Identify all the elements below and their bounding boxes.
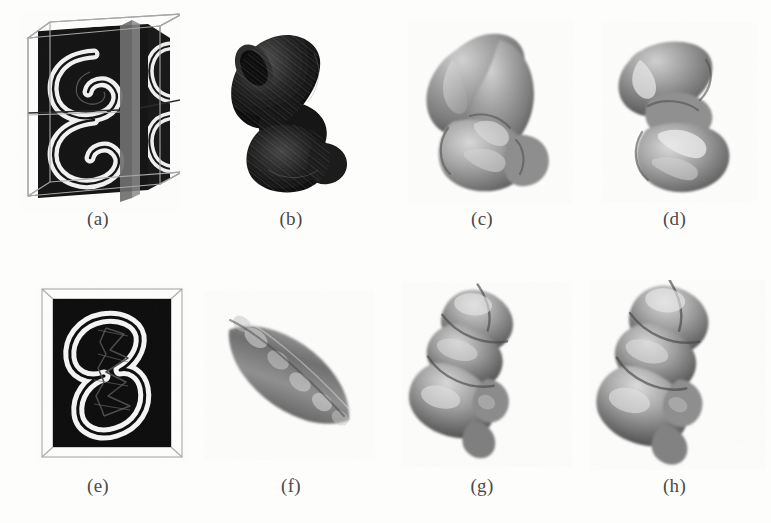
panel-caption-a: (a) (0, 209, 196, 228)
panel-b: (b) (196, 0, 386, 261)
isosurface-h (590, 280, 765, 470)
isosurface-b (210, 20, 370, 200)
panel-e: (e) (0, 262, 196, 523)
isosurface-g (402, 282, 572, 467)
figure-row-top: (a) (0, 0, 771, 261)
panel-caption-g: (g) (386, 476, 578, 495)
panel-f: (f) (196, 262, 386, 523)
panel-caption-c: (c) (386, 209, 578, 228)
panel-h-artwork (578, 262, 771, 474)
figure-row-bottom: (e) (0, 262, 771, 523)
panel-d-artwork (578, 0, 771, 212)
figure-panel-grid: (a) (0, 0, 771, 523)
panel-c: (c) (386, 0, 578, 261)
volume-box-a (20, 12, 180, 212)
panel-f-artwork (196, 262, 386, 474)
panel-caption-f: (f) (196, 476, 386, 495)
panel-caption-b: (b) (196, 209, 386, 228)
isosurface-d (602, 22, 757, 202)
panel-g-artwork (386, 262, 578, 474)
panel-e-artwork (0, 262, 196, 474)
isosurface-f (204, 290, 374, 460)
panel-caption-e: (e) (0, 476, 196, 495)
panel-c-artwork (386, 0, 578, 212)
panel-d: (d) (578, 0, 771, 261)
panel-h: (h) (578, 262, 771, 523)
isosurface-c (408, 20, 573, 205)
panel-a: (a) (0, 0, 196, 261)
panel-b-artwork (196, 0, 386, 212)
panel-a-artwork (0, 0, 196, 212)
volume-box-e (36, 284, 188, 464)
panel-caption-h: (h) (578, 476, 771, 495)
panel-caption-d: (d) (578, 209, 771, 228)
panel-g: (g) (386, 262, 578, 523)
